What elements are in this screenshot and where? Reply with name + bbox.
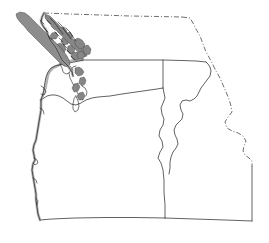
washington-north-border — [83, 60, 206, 62]
map-canvas — [0, 0, 269, 243]
oregon-idaho-border — [158, 88, 165, 218]
oregon-south-border — [40, 218, 165, 221]
idaho-montana-border — [213, 65, 252, 167]
idaho-south-border — [165, 218, 252, 221]
british-columbia-border — [182, 17, 213, 65]
pacific-northwest-map — [0, 0, 269, 243]
idaho-panhandle-west-border — [169, 62, 211, 174]
forty-ninth-parallel-border — [44, 13, 182, 17]
washington-oregon-border — [41, 88, 163, 105]
